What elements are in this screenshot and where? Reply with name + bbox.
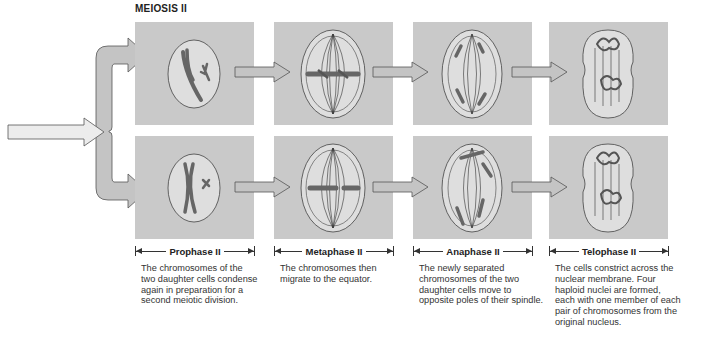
- arrow-right-icon: [234, 176, 292, 198]
- diagram-title: MEIOSIS II: [135, 3, 187, 14]
- stage-description-anaphase: The newly separated chromosomes of the t…: [419, 263, 543, 306]
- arrow-right-icon: [372, 176, 430, 198]
- split-arrow-icon: [0, 0, 140, 240]
- stage-label-anaphase: Anaphase II: [413, 244, 533, 258]
- stage-label-metaphase: Metaphase II: [274, 244, 394, 258]
- stage-description-telophase: The cells constrict across the nuclear m…: [555, 263, 681, 328]
- arrow-right-icon: [511, 61, 569, 83]
- stage-description-prophase: The chromosomes of the two daughter cell…: [141, 263, 257, 306]
- arrow-right-icon: [372, 61, 430, 83]
- arrow-right-icon: [511, 176, 569, 198]
- stage-label-prophase: Prophase II: [135, 244, 255, 258]
- stage-label-telophase: Telophase II: [549, 244, 669, 258]
- stage-description-metaphase: The chromosomes then migrate to the equa…: [280, 263, 377, 285]
- arrow-right-icon: [234, 61, 292, 83]
